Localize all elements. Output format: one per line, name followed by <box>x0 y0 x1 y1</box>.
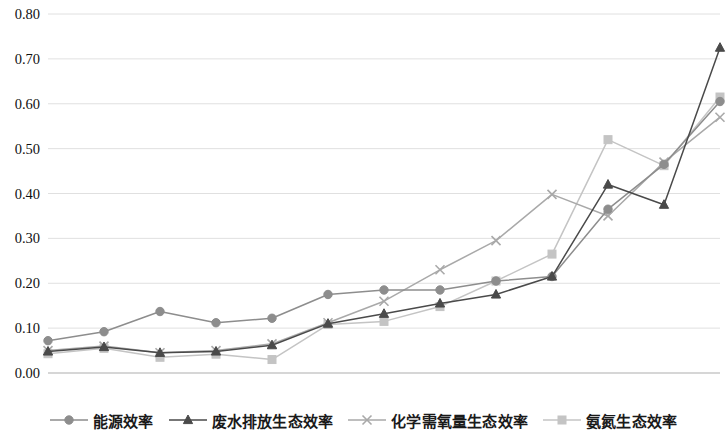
y-axis-tick-label: 0.60 <box>15 96 40 112</box>
data-point-circle <box>156 307 164 315</box>
data-point-circle <box>716 97 724 105</box>
legend-item-4[interactable]: 氨氮生态效率 <box>542 410 677 431</box>
data-point-square <box>548 250 556 258</box>
legend-item-2[interactable]: 废水排放生态效率 <box>168 410 334 431</box>
data-point-circle <box>268 314 276 322</box>
legend-item-label: 化学需氧量生态效率 <box>391 410 528 431</box>
data-point-cross <box>716 113 725 122</box>
line-chart: 0.000.100.200.300.400.500.600.700.802001… <box>0 0 726 435</box>
y-axis-tick-label: 0.30 <box>15 230 40 246</box>
data-point-triangle <box>603 180 612 189</box>
data-point-cross <box>548 190 557 199</box>
data-point-cross <box>492 236 501 245</box>
data-point-square <box>268 356 276 364</box>
data-point-circle <box>380 286 388 294</box>
y-axis-tick-label: 0.50 <box>15 141 40 157</box>
data-point-circle <box>436 286 444 294</box>
legend-marker-triangle-icon <box>168 413 208 427</box>
legend-marker-square-icon <box>542 413 582 427</box>
y-axis-tick-label: 0.10 <box>15 320 40 336</box>
data-point-circle <box>492 277 500 285</box>
data-point-circle <box>212 319 220 327</box>
y-axis-tick-label: 0.80 <box>15 6 40 22</box>
data-point-circle <box>604 205 612 213</box>
series-4 <box>44 93 724 364</box>
data-point-square <box>558 416 566 424</box>
legend-item-label: 氨氮生态效率 <box>586 410 677 431</box>
legend-item-1[interactable]: 能源效率 <box>49 410 154 431</box>
legend-marker-circle-icon <box>49 413 89 427</box>
legend-marker-cross-icon <box>347 413 387 427</box>
data-point-triangle <box>715 43 724 52</box>
data-point-circle <box>324 290 332 298</box>
data-point-circle <box>65 416 73 424</box>
y-axis-tick-label: 0.70 <box>15 51 40 67</box>
data-point-square <box>380 317 388 325</box>
legend-item-label: 能源效率 <box>93 410 154 431</box>
legend-item-label: 废水排放生态效率 <box>212 410 334 431</box>
legend-item-3[interactable]: 化学需氧量生态效率 <box>347 410 528 431</box>
series-2 <box>43 43 724 357</box>
y-axis-tick-label: 0.20 <box>15 275 40 291</box>
chart-legend: 能源效率废水排放生态效率化学需氧量生态效率氨氮生态效率 <box>0 405 726 435</box>
chart-canvas: 0.000.100.200.300.400.500.600.700.802001… <box>0 0 726 380</box>
y-axis-tick-label: 0.00 <box>15 365 40 380</box>
data-point-cross <box>436 265 445 274</box>
series-line <box>48 102 720 341</box>
data-point-circle <box>100 328 108 336</box>
data-point-square <box>604 136 612 144</box>
data-point-cross <box>380 297 389 306</box>
data-point-circle <box>44 336 52 344</box>
y-axis-tick-label: 0.40 <box>15 186 40 202</box>
data-point-circle <box>660 160 668 168</box>
plot-area: 0.000.100.200.300.400.500.600.700.802001… <box>0 0 726 380</box>
